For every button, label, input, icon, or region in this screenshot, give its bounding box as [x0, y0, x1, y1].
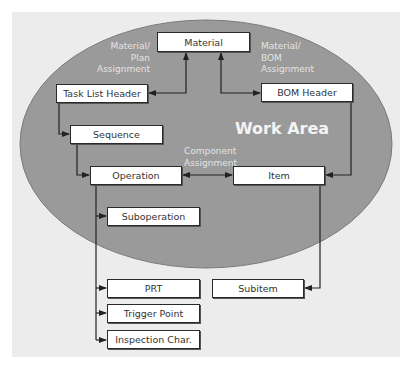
node-trigger-point: Trigger Point — [107, 304, 200, 323]
node-bom-header: BOM Header — [261, 83, 353, 102]
diagram-canvas — [0, 0, 412, 367]
node-suboperation: Suboperation — [107, 207, 200, 226]
node-item: Item — [233, 166, 325, 185]
node-prt: PRT — [107, 279, 200, 298]
material-plan-assignment-label: Material/ Plan Assignment — [94, 41, 150, 76]
node-operation: Operation — [90, 166, 182, 185]
node-subitem: Subitem — [212, 279, 304, 298]
node-material: Material — [157, 32, 250, 52]
node-sequence: Sequence — [70, 125, 163, 144]
node-task-list-header: Task List Header — [56, 84, 148, 103]
work-area-ellipse — [20, 20, 392, 268]
material-bom-assignment-label: Material/ BOM Assignment — [261, 41, 321, 76]
work-area-title: Work Area — [235, 119, 329, 138]
node-inspection-char: Inspection Char. — [107, 330, 200, 349]
